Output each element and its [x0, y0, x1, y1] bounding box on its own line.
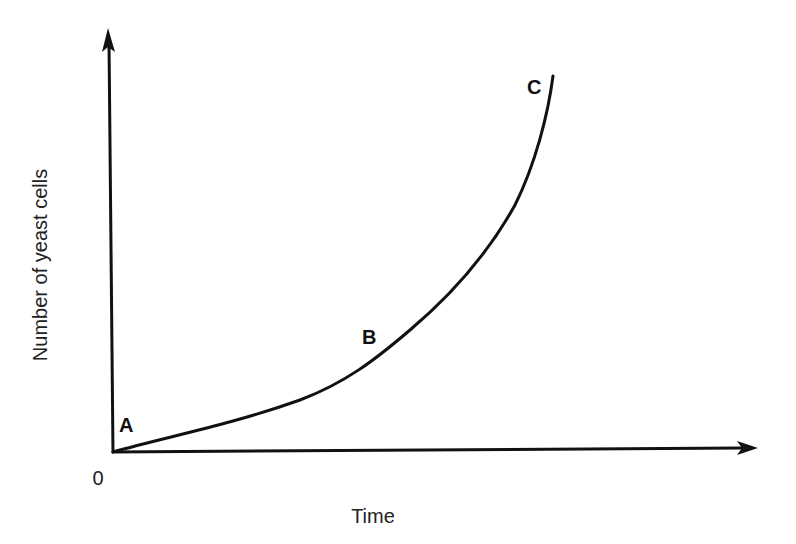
- y-axis-label: Number of yeast cells: [29, 169, 52, 361]
- x-axis-line: [112, 448, 742, 452]
- point-label-b: B: [362, 327, 376, 347]
- point-label-c: C: [527, 77, 541, 97]
- growth-curve-figure: [0, 0, 796, 544]
- point-label-a: A: [119, 415, 133, 435]
- origin-label: 0: [92, 467, 103, 490]
- y-axis-line: [109, 42, 113, 453]
- x-axis-label: Time: [351, 505, 395, 528]
- growth-curve: [113, 76, 553, 452]
